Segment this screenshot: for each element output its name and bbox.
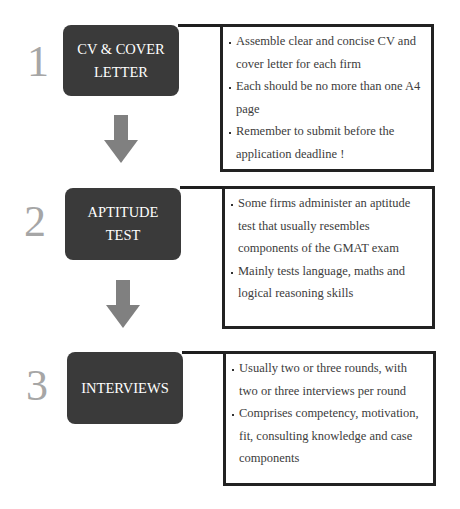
down-arrow-icon bbox=[104, 115, 138, 163]
step-number-2: 2 bbox=[24, 200, 46, 244]
description-box-1: Assemble clear and concise CV and cover … bbox=[220, 24, 434, 172]
description-box-3: Usually two or three rounds, with two or… bbox=[223, 351, 436, 486]
step-box-aptitude-test: APTITUDE TEST bbox=[65, 188, 181, 260]
bullet-item: Mainly tests language, maths and logical… bbox=[231, 260, 424, 305]
step-box-interviews: INTERVIEWS bbox=[67, 352, 183, 424]
bullet-item: Comprises competency, motivation, fit, c… bbox=[232, 402, 425, 470]
down-arrow-icon bbox=[106, 280, 140, 328]
description-box-2: Some firms administer an aptitude test t… bbox=[222, 186, 435, 329]
step-number-1: 1 bbox=[27, 40, 49, 84]
bullet-item: Usually two or three rounds, with two or… bbox=[232, 357, 425, 402]
step-number-3: 3 bbox=[26, 364, 48, 408]
bullet-item: Assemble clear and concise CV and cover … bbox=[229, 30, 423, 75]
step-title-line: INTERVIEWS bbox=[81, 377, 168, 400]
step-title-line: LETTER bbox=[77, 61, 165, 84]
bullet-item: Each should be no more than one A4 page bbox=[229, 75, 423, 120]
step-title-line: CV & COVER bbox=[77, 38, 165, 61]
bullet-item: Remember to submit before the applicatio… bbox=[229, 120, 423, 165]
step-box-cv-cover-letter: CV & COVER LETTER bbox=[63, 25, 179, 96]
step-title-line: APTITUDE bbox=[88, 201, 159, 224]
bullet-item: Some firms administer an aptitude test t… bbox=[231, 192, 424, 260]
step-title-line: TEST bbox=[88, 224, 159, 247]
